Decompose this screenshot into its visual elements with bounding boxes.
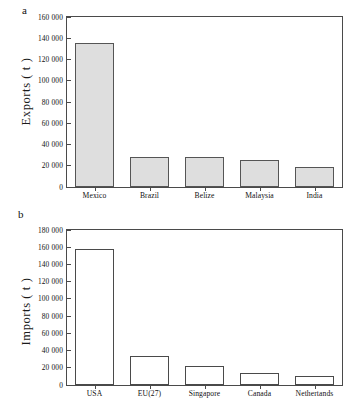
plot-area-exports: 020 00040 00060 00080 000100 000120 0001… xyxy=(66,16,343,188)
bar xyxy=(185,366,224,385)
bar xyxy=(240,160,279,187)
bar-slot xyxy=(122,17,177,187)
x-tick-label: USA xyxy=(67,389,122,398)
y-tick-label: 20 000 xyxy=(42,161,67,170)
bar-slot xyxy=(67,17,122,187)
x-axis-labels-exports: MexicoBrazilBelizeMalaysiaIndia xyxy=(67,187,342,200)
y-tick-label: 60 000 xyxy=(42,119,67,128)
bar-slot xyxy=(67,230,122,385)
y-tick-label: 120 000 xyxy=(38,55,67,64)
bar xyxy=(295,167,334,187)
x-tick-label: Mexico xyxy=(67,191,122,200)
y-tick-label: 20 000 xyxy=(42,363,67,372)
bar-slot xyxy=(287,230,342,385)
panel-letter-b: b xyxy=(18,208,24,220)
x-tick-label: Malaysia xyxy=(232,191,287,200)
y-tick-label: 80 000 xyxy=(42,98,67,107)
bar xyxy=(75,249,114,385)
y-tick-label: 40 000 xyxy=(42,346,67,355)
x-tick-label: India xyxy=(287,191,342,200)
bar-slot xyxy=(177,230,232,385)
y-tick-label: 160 000 xyxy=(38,13,67,22)
y-tick-label: 120 000 xyxy=(38,277,67,286)
bar xyxy=(240,373,279,385)
y-axis-title-imports: Imports ( t ) xyxy=(19,242,34,382)
bar xyxy=(295,376,334,385)
bar-slot xyxy=(232,17,287,187)
x-tick-label: Brazil xyxy=(122,191,177,200)
bar-series-exports xyxy=(67,17,342,187)
y-tick-label: 100 000 xyxy=(38,294,67,303)
x-tick-label: Singapore xyxy=(177,389,232,398)
y-tick-label: 100 000 xyxy=(38,76,67,85)
y-tick-label: 40 000 xyxy=(42,140,67,149)
x-tick-label: Canada xyxy=(232,389,287,398)
x-tick-label: Nethertands xyxy=(287,389,342,398)
y-tick-label: 160 000 xyxy=(38,243,67,252)
bar xyxy=(130,356,169,385)
x-tick-label: EU(27) xyxy=(122,389,177,398)
bar-slot xyxy=(177,17,232,187)
y-tick-label: 80 000 xyxy=(42,312,67,321)
y-tick-label: 60 000 xyxy=(42,329,67,338)
bar xyxy=(75,43,114,188)
bar xyxy=(130,157,169,187)
bar xyxy=(185,157,224,187)
y-axis-title-exports: Exports ( t ) xyxy=(19,22,34,162)
y-tick-label: 140 000 xyxy=(38,260,67,269)
x-tick-label: Belize xyxy=(177,191,232,200)
chart-panel-b: b Imports ( t ) 020 00040 00060 00080 00… xyxy=(0,208,351,416)
bar-series-imports xyxy=(67,230,342,385)
panel-letter-a: a xyxy=(22,4,27,16)
plot-area-imports: 020 00040 00060 00080 000100 000120 0001… xyxy=(66,229,343,386)
x-axis-labels-imports: USAEU(27)SingaporeCanadaNethertands xyxy=(67,385,342,398)
chart-panel-a: a Exports ( t ) 020 00040 00060 00080 00… xyxy=(0,0,351,208)
bar-slot xyxy=(287,17,342,187)
figure-container: a Exports ( t ) 020 00040 00060 00080 00… xyxy=(0,0,351,416)
y-tick-label: 0 xyxy=(59,381,67,390)
y-tick-label: 0 xyxy=(59,183,67,192)
bar-slot xyxy=(122,230,177,385)
bar-slot xyxy=(232,230,287,385)
y-tick-label: 180 000 xyxy=(38,226,67,235)
y-tick-label: 140 000 xyxy=(38,34,67,43)
